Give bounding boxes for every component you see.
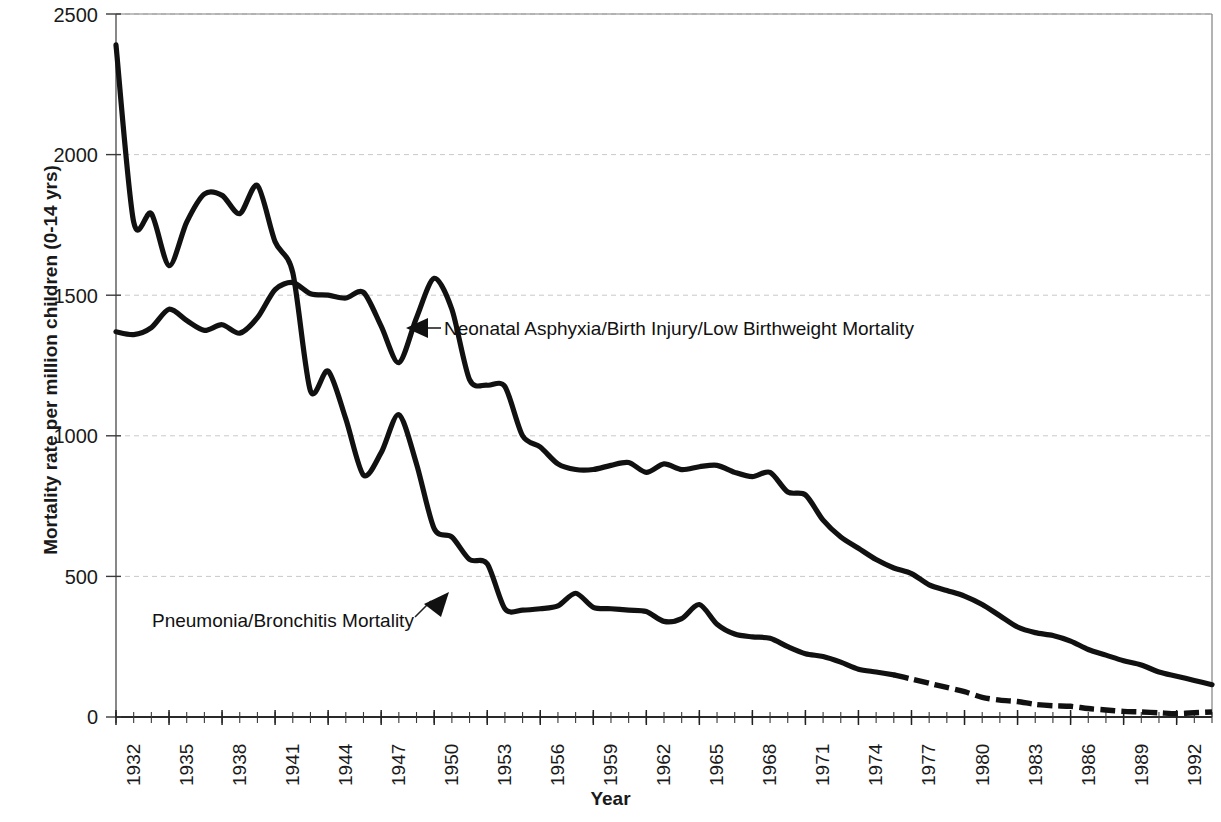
x-tick-label-1959: 1959 [600,744,622,786]
x-tick-label-1950: 1950 [441,744,463,786]
x-tick-label-1989: 1989 [1131,744,1153,786]
plot-canvas [0,0,1221,822]
x-tick-label-1956: 1956 [547,744,569,786]
x-axis-major-ticks [116,710,1177,725]
x-tick-label-1992: 1992 [1184,744,1206,786]
annotation-pneumonia-arrow [415,592,449,617]
gridlines [116,14,1212,576]
x-tick-label-1935: 1935 [176,744,198,786]
x-tick-label-1971: 1971 [812,744,834,786]
x-tick-label-1974: 1974 [865,744,887,786]
x-tick-label-1953: 1953 [494,744,516,786]
x-tick-label-1977: 1977 [918,744,940,786]
x-tick-label-1944: 1944 [335,744,357,786]
x-tick-label-1980: 1980 [972,744,994,786]
x-tick-label-1965: 1965 [706,744,728,786]
x-tick-label-1983: 1983 [1025,744,1047,786]
x-tick-label-1941: 1941 [282,744,304,786]
x-tick-label-1968: 1968 [759,744,781,786]
x-tick-label-1962: 1962 [653,744,675,786]
series-line-pneumonia-dashed [894,675,1212,714]
series-line-pneumonia-solid [116,45,894,675]
x-tick-label-1938: 1938 [229,744,251,786]
x-tick-label-1986: 1986 [1078,744,1100,786]
axis-frame [116,14,1212,717]
x-tick-label-1947: 1947 [388,744,410,786]
x-tick-label-1932: 1932 [123,744,145,786]
y-axis-ticks [106,14,121,717]
chart-figure: Mortality rate per million children (0-1… [0,0,1221,822]
